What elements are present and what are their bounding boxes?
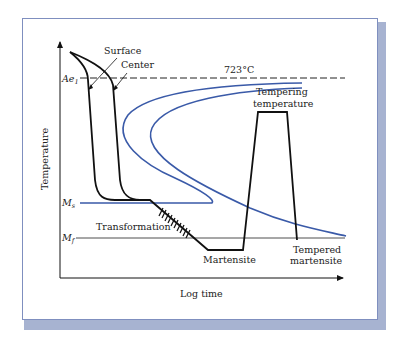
tempered-label-line1: Tempered xyxy=(293,244,341,255)
ms-symbol: M xyxy=(61,197,72,208)
center-leader xyxy=(115,73,127,88)
ae1-subscript: 1 xyxy=(74,78,78,86)
tempering-label-line2: temperature xyxy=(253,98,314,109)
ae1-temperature-label: 723°C xyxy=(224,64,254,75)
tempering-diagram: Surface Center 723°C Ae1 Ms Mf Transform… xyxy=(0,0,404,346)
mf-symbol: M xyxy=(61,232,72,243)
ae1-symbol: Ae xyxy=(61,73,75,84)
y-axis-label: Temperature xyxy=(39,127,50,190)
x-axis-label: Log time xyxy=(180,288,223,299)
tempering-label-line1: Tempering xyxy=(256,86,308,97)
ae1-label: Ae1 xyxy=(61,73,79,86)
ms-label: Ms xyxy=(61,197,76,210)
martensite-label: Martensite xyxy=(203,254,256,265)
transformation-label: Transformation xyxy=(96,221,171,232)
center-label: Center xyxy=(121,59,154,70)
mf-subscript: f xyxy=(71,237,76,245)
mf-label: Mf xyxy=(61,232,76,245)
ttt-finish-curve xyxy=(150,88,346,236)
tempered-label-line2: martensite xyxy=(290,255,343,266)
surface-label: Surface xyxy=(104,45,142,56)
surface-cooling-curve xyxy=(70,52,150,200)
ms-subscript: s xyxy=(72,202,76,210)
